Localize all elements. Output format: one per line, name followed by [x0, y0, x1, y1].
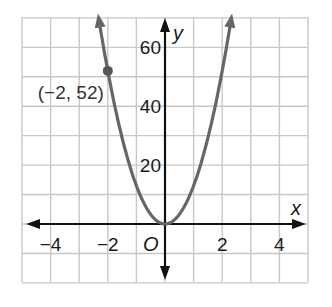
x-axis-arrow-left-icon [26, 219, 40, 229]
x-tick-label: −2 [97, 234, 119, 255]
axes [26, 18, 306, 280]
x-axis-label: x [290, 197, 302, 219]
x-tick-label: 4 [274, 234, 285, 255]
curve-arrow-left-icon [95, 14, 106, 29]
x-tick-label: −4 [40, 234, 62, 255]
y-tick-label: 60 [140, 37, 161, 58]
point-label: (−2, 52) [38, 82, 104, 103]
x-tick-label: 2 [217, 234, 228, 255]
y-tick-label: 40 [140, 96, 161, 117]
y-tick-label: 20 [140, 155, 161, 176]
y-axis-label: y [171, 22, 184, 44]
y-axis-arrow-down-icon [160, 266, 170, 280]
y-axis-arrow-up-icon [160, 18, 170, 32]
curve-arrow-right-icon [224, 14, 235, 29]
x-axis-arrow-right-icon [292, 219, 306, 229]
parabola-graph: −4−224204060 x y O (−2, 52) [0, 0, 332, 307]
highlighted-point [103, 66, 113, 76]
origin-label: O [143, 233, 159, 255]
